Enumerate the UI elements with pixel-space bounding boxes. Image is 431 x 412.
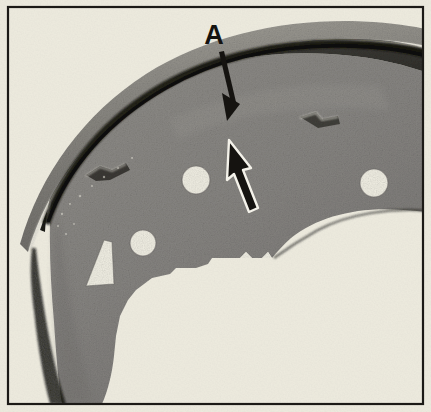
- figure-container: A: [0, 0, 431, 412]
- brake-shoe-figure: A: [0, 0, 431, 412]
- callout-letter-a: A: [204, 20, 224, 50]
